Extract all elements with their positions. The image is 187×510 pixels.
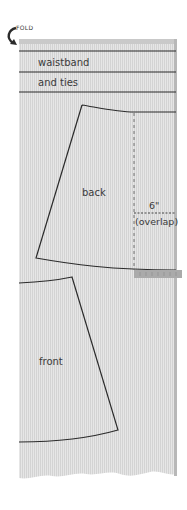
selvage-edge [174,39,177,476]
skirt-cutting-layout: waistband and ties FOLD back 6" (overlap… [0,0,187,510]
ruler-icon [134,270,182,278]
back-label: back [82,187,106,198]
fold-label: FOLD [16,24,33,31]
front-label: front [39,356,63,367]
overlap-note: (overlap) [135,216,178,227]
fold-shade [19,39,176,44]
ties-label: and ties [38,77,78,88]
waistband-label: waistband [38,57,89,68]
overlap-measure: 6" [149,200,159,211]
